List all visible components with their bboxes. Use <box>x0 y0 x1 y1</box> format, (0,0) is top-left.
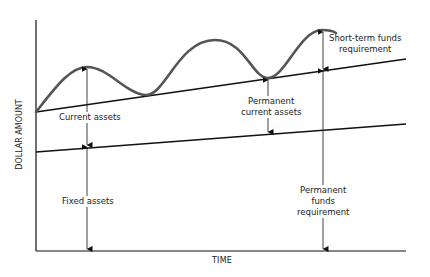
label-line: requirement <box>297 207 349 218</box>
permanent-current-assets-label: Permanent current assets <box>240 96 302 118</box>
label-line: Permanent <box>297 185 349 196</box>
label-line: funds <box>297 196 349 207</box>
fixed-assets-label: Fixed assets <box>61 196 115 207</box>
x-axis-label: TIME <box>212 256 232 265</box>
short-term-funds-label: Short-term funds requirement <box>328 33 402 55</box>
label-line: Permanent <box>241 96 301 107</box>
fixed-assets-line <box>36 124 406 152</box>
permanent-funds-label: Permanent funds requirement <box>296 185 350 218</box>
label-line: Short-term funds <box>329 33 401 44</box>
y-axis-label: DOLLAR AMOUNT <box>15 95 24 175</box>
current-assets-label: Current assets <box>58 112 122 123</box>
label-line: current assets <box>241 107 301 118</box>
label-line: requirement <box>329 44 401 55</box>
